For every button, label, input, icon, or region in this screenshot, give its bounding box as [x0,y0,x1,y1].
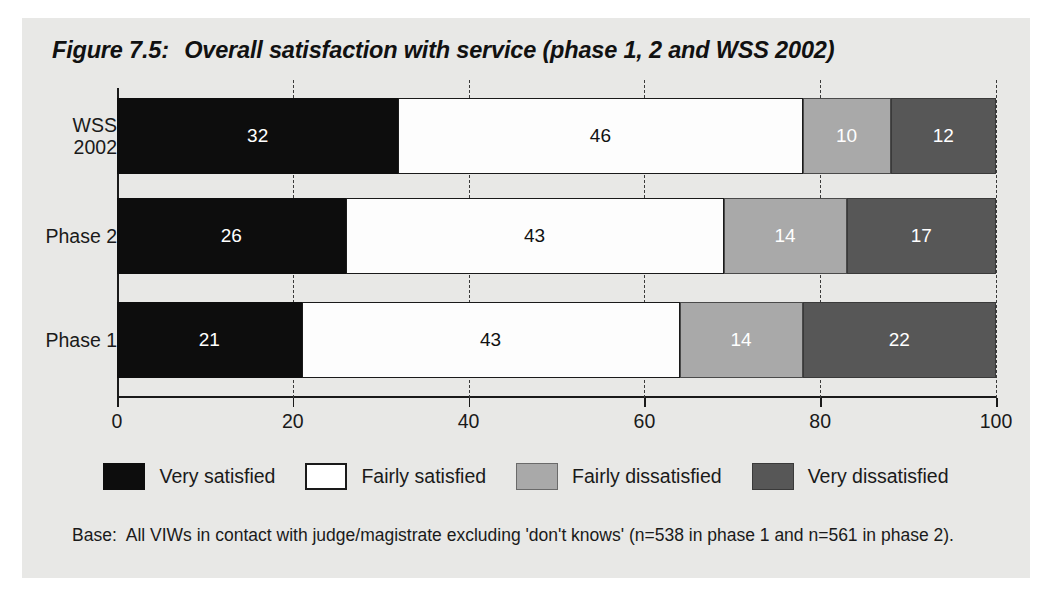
figure-title-text: Overall satisfaction with service (phase… [184,36,834,63]
figure-panel: Figure 7.5:Overall satisfaction with ser… [22,18,1030,578]
bar-segment-value: 32 [247,125,268,147]
x-axis-tick [644,398,646,407]
bar-segment-fairly-dissatisfied: 14 [724,198,847,274]
bar-segment-very-dissatisfied: 22 [803,302,996,378]
plot-box: 324610122643141721431422 020406080100 [117,88,996,398]
bar-row: 26431417 [117,198,996,274]
legend-item: Fairly satisfied [305,463,486,490]
x-axis-tick [820,398,822,407]
x-axis-tick-label: 80 [809,410,831,433]
legend-label: Very satisfied [159,465,275,488]
legend-swatch-icon [752,463,794,490]
legend-label: Fairly dissatisfied [572,465,722,488]
bar-segment-value: 14 [731,329,752,351]
gridline [996,80,997,398]
base-note-prefix: Base: [72,523,117,548]
bar-segment-very-satisfied: 32 [117,98,398,174]
chart-area: WSS2002Phase 2Phase 1 324610122643141721… [22,88,1030,448]
legend-swatch-icon [305,463,347,490]
x-axis-tick-label: 0 [112,410,123,433]
legend-label: Very dissatisfied [808,465,949,488]
base-note-text: All VIWs in contact with judge/magistrat… [126,523,1012,548]
bar-segment-value: 17 [911,225,932,247]
y-axis-category-label: Phase 1 [22,329,117,352]
figure-number: Figure 7.5: [52,36,169,63]
bar-segment-value: 43 [524,225,545,247]
bar-segment-value: 21 [199,329,220,351]
bar-row: 32461012 [117,98,996,174]
bar-segment-very-satisfied: 26 [117,198,346,274]
x-axis-line [117,396,996,398]
bar-segment-value: 26 [221,225,242,247]
bar-segment-very-dissatisfied: 12 [891,98,996,174]
bar-row-inner: 32461012 [117,98,996,174]
legend-item: Very satisfied [103,463,275,490]
bar-segment-value: 22 [889,329,910,351]
bar-segment-value: 10 [836,125,857,147]
x-axis-tick [996,398,998,407]
y-axis-category-label-line: Phase 2 [22,225,117,248]
figure-title: Figure 7.5:Overall satisfaction with ser… [52,36,834,64]
bar-segment-fairly-dissatisfied: 14 [680,302,803,378]
x-axis-tick-label: 100 [980,410,1013,433]
x-axis-tick-label: 20 [282,410,304,433]
bar-segment-value: 14 [774,225,795,247]
bar-row-inner: 21431422 [117,302,996,378]
bar-segment-value: 43 [480,329,501,351]
y-axis-category-label: WSS2002 [22,114,117,159]
bar-segment-very-satisfied: 21 [117,302,302,378]
x-axis-tick [469,398,471,407]
bar-row: 21431422 [117,302,996,378]
y-axis-labels: WSS2002Phase 2Phase 1 [22,88,117,398]
bar-segment-very-dissatisfied: 17 [847,198,996,274]
base-note: Base: All VIWs in contact with judge/mag… [72,523,1012,548]
y-axis-category-label-line: Phase 1 [22,329,117,352]
legend-item: Very dissatisfied [752,463,949,490]
legend-swatch-icon [103,463,145,490]
legend-item: Fairly dissatisfied [516,463,722,490]
legend-swatch-icon [516,463,558,490]
x-axis-tick [293,398,295,407]
x-axis-tick [117,398,119,407]
bar-segment-value: 46 [590,125,611,147]
y-axis-category-label-line: 2002 [22,136,117,159]
bar-segment-fairly-satisfied: 46 [398,98,802,174]
bar-segment-fairly-satisfied: 43 [346,198,724,274]
bar-segment-fairly-satisfied: 43 [302,302,680,378]
bar-row-inner: 26431417 [117,198,996,274]
legend-label: Fairly satisfied [361,465,486,488]
bar-segment-value: 12 [933,125,954,147]
x-axis-tick-label: 60 [634,410,656,433]
bar-segment-fairly-dissatisfied: 10 [803,98,891,174]
y-axis-category-label-line: WSS [22,114,117,137]
y-axis-category-label: Phase 2 [22,225,117,248]
x-axis-tick-label: 40 [458,410,480,433]
chart-legend: Very satisfiedFairly satisfiedFairly dis… [22,463,1030,490]
